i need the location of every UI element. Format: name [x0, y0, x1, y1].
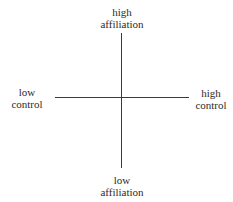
low-affiliation-label-line-1: low — [91, 174, 153, 186]
high-control-label-line-1: high — [189, 87, 233, 99]
high-affiliation-label-line-2: affiliation — [91, 18, 153, 30]
low-control-label-line-1: low — [2, 86, 52, 98]
low-control-label: low control — [2, 86, 52, 110]
high-control-label: high control — [189, 87, 233, 111]
control-axis-line — [55, 97, 189, 98]
high-control-label-line-2: control — [189, 99, 233, 111]
low-affiliation-label-line-2: affiliation — [91, 186, 153, 198]
affiliation-axis-line — [121, 33, 122, 168]
quadrant-diagram: high affiliation low affiliation low con… — [0, 0, 233, 202]
high-affiliation-label-line-1: high — [91, 6, 153, 18]
low-affiliation-label: low affiliation — [91, 174, 153, 198]
high-affiliation-label: high affiliation — [91, 6, 153, 30]
low-control-label-line-2: control — [2, 98, 52, 110]
